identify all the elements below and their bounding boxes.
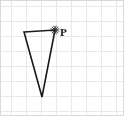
geometry-shapes [0, 0, 124, 116]
triangle [24, 30, 55, 97]
geometry-figure: P [0, 0, 124, 116]
